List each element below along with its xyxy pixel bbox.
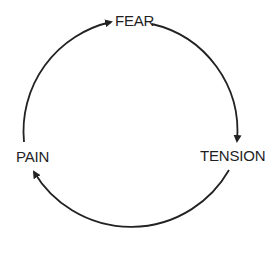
node-tension-label: TENSION — [200, 148, 265, 164]
node-fear-label: FEAR — [115, 13, 154, 29]
arrow-fear-to-tension — [152, 24, 237, 141]
arrow-tension-to-pain — [34, 170, 229, 227]
arrow-pain-to-fear — [23, 22, 111, 142]
node-pain-label: PAIN — [16, 149, 49, 165]
cycle-arrows — [0, 0, 278, 262]
fear-tension-pain-cycle-diagram: FEAR TENSION PAIN — [0, 0, 278, 262]
